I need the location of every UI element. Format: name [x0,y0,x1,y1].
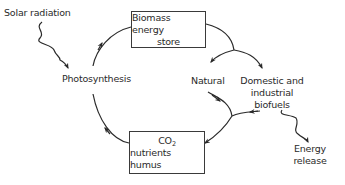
merge-to-co2-arrow [205,116,232,143]
natural-label: Natural [191,75,225,87]
domestic-line2: industrial [236,87,308,99]
natural-to-merge-arrow [208,92,232,116]
co2-nutrients-humus-box: CO2 nutrients humus [129,131,205,174]
co2-label: CO2 [158,135,176,147]
domestic-line1: Domestic and [236,75,308,87]
biomass-store-line2: store [157,36,180,48]
biomass-store-line1: Biomass energy [132,12,205,36]
biomass-energy-store-box: Biomass energy store [131,11,206,48]
biomass-split-curve [206,24,234,50]
co2-to-photosynthesis-arrow [93,94,129,143]
energy-release-label: Energy release [290,143,330,167]
energy-release-line2: release [290,155,330,167]
biomass-to-domestic-arrow [234,50,262,68]
solar-to-photosynthesis-arrow [39,22,68,68]
domestic-line3: biofuels [236,99,308,111]
nutrients-humus-label: nutrients humus [130,147,204,171]
photosynthesis-to-biomass-arrow [93,27,131,66]
energy-release-line1: Energy [290,143,330,155]
photosynthesis-label: Photosynthesis [62,73,131,85]
domestic-industrial-biofuels-label: Domestic and industrial biofuels [236,75,308,111]
biofuels-to-energy-release-arrow [281,110,308,142]
biomass-to-natural-arrow [211,50,234,62]
solar-radiation-label: Solar radiation [4,7,71,19]
